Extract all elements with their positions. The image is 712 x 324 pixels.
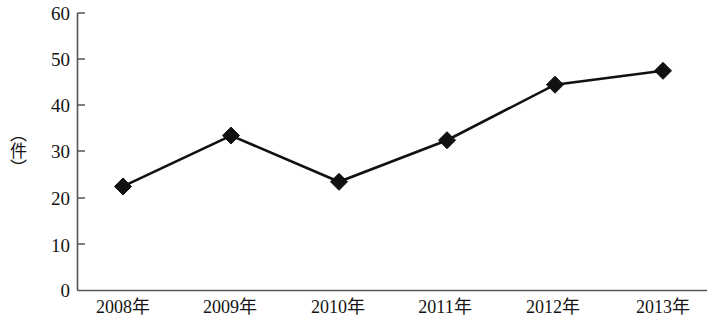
y-axis-tick-marks <box>78 13 86 244</box>
x-tick-label-2010: 2010年 <box>283 298 393 316</box>
line-chart: （件） 60 50 40 30 20 10 0 2008年 2009年 2010… <box>0 0 712 324</box>
plot-area <box>0 0 712 324</box>
data-line <box>123 71 663 187</box>
data-point-marker <box>655 62 672 79</box>
data-point-marker <box>439 132 456 149</box>
x-tick-label-2013: 2013年 <box>608 298 712 316</box>
x-tick-label-2012: 2012年 <box>498 298 608 316</box>
data-point-marker <box>331 173 348 190</box>
x-tick-label-2008: 2008年 <box>68 298 178 316</box>
data-point-marker <box>547 76 564 93</box>
x-tick-label-2009: 2009年 <box>175 298 285 316</box>
x-tick-label-2011: 2011年 <box>390 298 500 316</box>
data-point-markers <box>115 62 672 195</box>
data-point-marker <box>115 178 132 195</box>
data-point-marker <box>223 127 240 144</box>
